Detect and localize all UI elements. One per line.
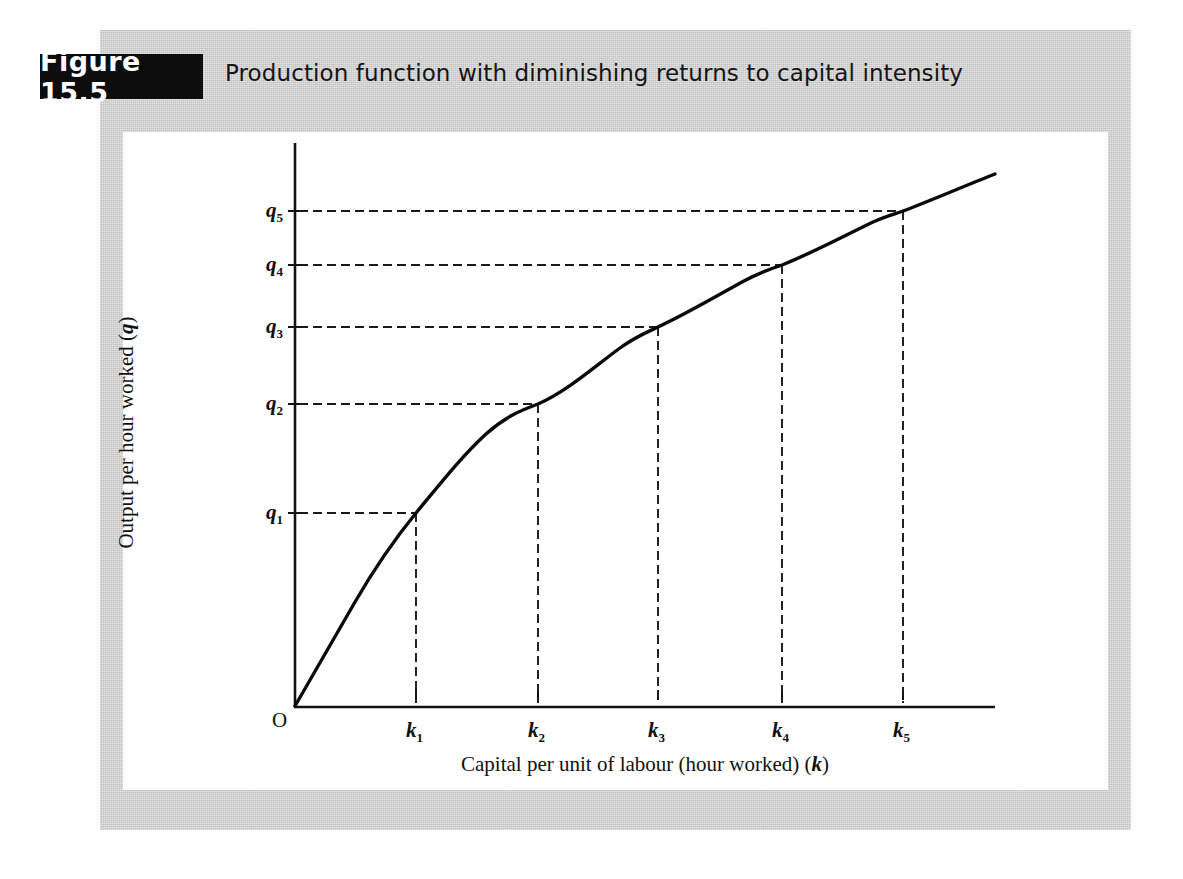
figure-number-badge: Figure 15.5: [40, 54, 203, 99]
figure-caption-title: Production function with diminishing ret…: [225, 60, 963, 86]
y-tick-label-q3: q3: [255, 314, 283, 342]
y-tick-label-q2: q2: [255, 391, 283, 419]
x-tick-label-k1: k1: [406, 718, 423, 746]
y-tick-label-q5: q5: [255, 198, 283, 226]
x-tick-label-k5: k5: [893, 718, 910, 746]
x-tick-label-k3: k3: [648, 718, 665, 746]
x-axis-title-text: Capital per unit of labour (hour worked): [461, 752, 805, 776]
y-axis-title: Output per hour worked (q): [114, 243, 139, 623]
x-axis-title: Capital per unit of labour (hour worked)…: [295, 752, 995, 777]
y-tick-label-q4: q4: [255, 252, 283, 280]
figure-white-card: [123, 132, 1108, 790]
y-tick-label-q1: q1: [255, 500, 283, 528]
x-tick-label-k4: k4: [772, 718, 789, 746]
y-axis-title-symbol: q: [114, 323, 138, 334]
y-axis-title-text: Output per hour worked: [114, 341, 138, 549]
x-axis-title-symbol: k: [812, 752, 823, 776]
origin-label: O: [272, 708, 287, 733]
x-tick-label-k2: k2: [528, 718, 545, 746]
